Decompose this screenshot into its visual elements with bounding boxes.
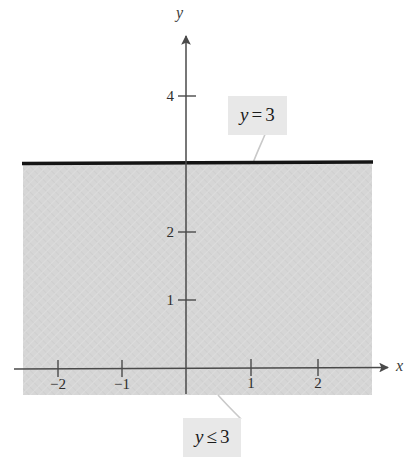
- y-tick-label-4: 4: [160, 89, 174, 104]
- plot-canvas: [0, 0, 415, 466]
- x-tick-label-neg2: −2: [50, 377, 66, 392]
- x-tick-label-neg1: −1: [114, 377, 130, 392]
- boundary-callout-operator: =: [248, 104, 265, 125]
- region-callout-value: 3: [220, 426, 230, 447]
- y-tick-label-1: 1: [160, 293, 174, 308]
- x-tick-label-pos2: 2: [314, 376, 322, 391]
- x-tick-label-pos1: 1: [247, 376, 255, 391]
- region-inequality-callout: y≤3: [183, 418, 241, 457]
- boundary-equation-callout: y=3: [228, 96, 287, 135]
- y-axis-label: y: [176, 5, 183, 21]
- boundary-callout-leader-line: [253, 132, 266, 163]
- region-callout-operator: ≤: [203, 426, 219, 447]
- inequality-graph-figure: y x −2 −1 1 2 1 2 4 y=3 y≤3: [0, 0, 415, 466]
- region-callout-leader-line: [218, 395, 241, 419]
- boundary-callout-value: 3: [265, 104, 275, 125]
- x-axis-label: x: [396, 358, 403, 374]
- shaded-solution-region: [23, 164, 372, 395]
- boundary-line-y-equals-3: [22, 162, 373, 164]
- y-tick-label-2: 2: [160, 225, 174, 240]
